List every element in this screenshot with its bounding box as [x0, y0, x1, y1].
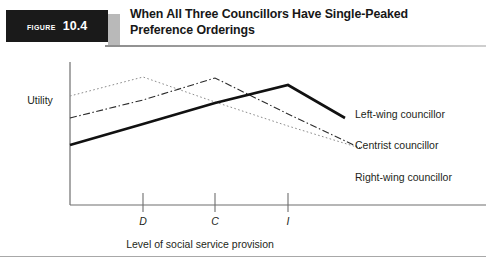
- x-tick-label-d: D: [133, 215, 153, 227]
- chart-axes: [70, 62, 486, 205]
- legend-label-right-wing-councillor: Right-wing councillor: [355, 171, 452, 183]
- figure-title-line-2: Preference Orderings: [130, 22, 480, 38]
- figure-title-line-1: When All Three Councillors Have Single-P…: [130, 6, 480, 22]
- x-tick-label-c: C: [205, 215, 225, 227]
- legend-label-left-wing-councillor: Left-wing councillor: [355, 108, 445, 120]
- footer-caption: [70, 259, 470, 267]
- figure-number-badge-inner: Figure 10.4: [6, 10, 108, 42]
- series-line-left-wing-councillor: [70, 85, 345, 145]
- chart-series-group: [70, 77, 360, 148]
- legend-label-centrist-councillor: Centrist councillor: [355, 139, 438, 151]
- figure-label-number: 10.4: [63, 20, 87, 33]
- figure-container: Figure 10.4 When All Three Councillors H…: [0, 0, 486, 267]
- chart-svg: [0, 52, 486, 252]
- figure-number-badge: Figure 10.4: [6, 10, 108, 42]
- header-divider: [105, 45, 486, 47]
- figure-badge-shadow: [108, 14, 120, 46]
- footer-divider: [0, 256, 486, 257]
- figure-header: Figure 10.4 When All Three Councillors H…: [0, 0, 486, 52]
- series-line-centrist-councillor: [70, 78, 360, 148]
- y-axis-title: Utility: [14, 94, 66, 106]
- x-axis-title: Level of social service provision: [60, 238, 340, 250]
- x-axis-ticks: [143, 193, 288, 212]
- figure-title: When All Three Councillors Have Single-P…: [130, 6, 480, 38]
- figure-label-word: Figure: [27, 21, 56, 32]
- series-line-right-wing-councillor: [70, 77, 360, 148]
- x-tick-label-i: I: [278, 215, 298, 227]
- chart-plot-area: Utility D C I Level of social service pr…: [0, 52, 486, 252]
